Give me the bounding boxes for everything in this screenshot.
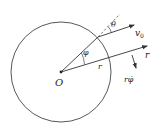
phi-label: φ bbox=[83, 48, 89, 57]
v0-label: v0 bbox=[135, 28, 144, 39]
r-direction-label: r bbox=[145, 50, 150, 60]
origin-label: O bbox=[55, 77, 63, 88]
v0-label-sub: 0 bbox=[140, 32, 144, 39]
r-phidot-label: rφ̇ bbox=[124, 75, 134, 84]
diagram-canvas: O φ θ v0 r r rφ̇ bbox=[0, 0, 160, 132]
r-phidot-arrow bbox=[132, 55, 136, 68]
r-radius-label: r bbox=[98, 62, 103, 71]
theta-label: θ bbox=[111, 20, 116, 29]
r-direction-arrow bbox=[61, 46, 147, 72]
v0-arrow bbox=[98, 25, 134, 37]
